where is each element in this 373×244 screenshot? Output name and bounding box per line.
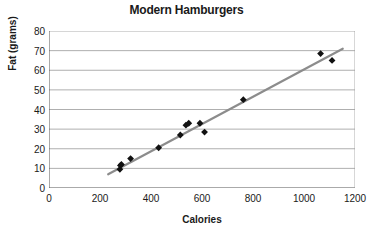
scatter-chart: Modern Hamburgers Fat (grams) Calories 0…: [0, 0, 373, 244]
y-tick-label: 60: [34, 65, 45, 76]
x-tick-label: 1200: [344, 193, 366, 204]
y-tick-label: 20: [34, 143, 45, 154]
y-axis-title: Fat (grams): [7, 0, 18, 89]
y-tick-label: 40: [34, 104, 45, 115]
y-tick-label: 70: [34, 45, 45, 56]
chart-title: Modern Hamburgers: [0, 3, 373, 17]
y-tick-label: 80: [34, 26, 45, 37]
plot-area: 01020304050607080 020040060080010001200: [49, 31, 355, 188]
x-axis-title: Calories: [49, 214, 355, 225]
x-tick-label: 1000: [293, 193, 315, 204]
x-tick-label: 0: [46, 193, 52, 204]
y-tick-label: 30: [34, 124, 45, 135]
x-tick-label: 400: [143, 193, 160, 204]
x-tick-labels: 020040060080010001200: [49, 31, 355, 188]
x-tick-label: 800: [245, 193, 262, 204]
x-tick-label: 600: [194, 193, 211, 204]
x-tick-label: 200: [92, 193, 109, 204]
y-tick-label: 10: [34, 163, 45, 174]
y-tick-label: 50: [34, 84, 45, 95]
y-tick-label: 0: [39, 183, 45, 194]
